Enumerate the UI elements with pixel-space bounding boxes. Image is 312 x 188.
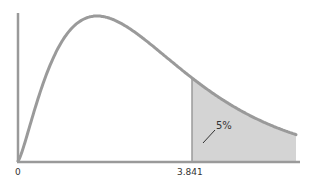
tail-area-label: 5% <box>216 120 232 131</box>
chi-square-chart: 5% 0 3.841 <box>0 0 312 188</box>
x-tick-critical: 3.841 <box>177 167 203 177</box>
x-tick-origin: 0 <box>15 167 21 177</box>
